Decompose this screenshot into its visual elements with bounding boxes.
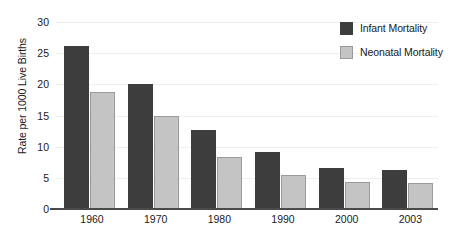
bar-infant-1990 bbox=[255, 152, 280, 209]
bar-group bbox=[128, 22, 184, 209]
legend-swatch-icon bbox=[340, 46, 353, 59]
legend-label: Neonatal Mortality bbox=[360, 46, 443, 58]
legend-swatch-icon bbox=[340, 22, 353, 35]
x-tick-label: 2003 bbox=[380, 213, 440, 225]
bar-neonatal-1960 bbox=[90, 92, 115, 209]
bar-infant-1960 bbox=[64, 46, 89, 209]
x-axis-line bbox=[50, 208, 438, 210]
legend-label: Infant Mortality bbox=[360, 22, 427, 34]
bar-infant-1980 bbox=[191, 130, 216, 209]
bar-chart: Rate per 1000 Live Births 051015202530 1… bbox=[0, 0, 459, 245]
bar-infant-2003 bbox=[382, 170, 407, 209]
bar-neonatal-1970 bbox=[154, 116, 179, 210]
y-tick-label: 20 bbox=[27, 79, 49, 89]
bar-infant-2000 bbox=[319, 168, 344, 209]
y-tick-label: 10 bbox=[27, 142, 49, 152]
x-tick-label: 1990 bbox=[253, 213, 313, 225]
y-tick-label: 15 bbox=[27, 111, 49, 121]
bar-group bbox=[191, 22, 247, 209]
y-tick-label: 5 bbox=[27, 173, 49, 183]
chart-legend: Infant MortalityNeonatal Mortality bbox=[340, 18, 443, 66]
y-tick-label: 30 bbox=[27, 17, 49, 27]
x-tick-label: 1960 bbox=[62, 213, 122, 225]
bar-neonatal-1990 bbox=[281, 175, 306, 209]
bar-neonatal-2003 bbox=[408, 183, 433, 209]
bar-infant-1970 bbox=[128, 84, 153, 209]
bar-neonatal-1980 bbox=[217, 157, 242, 209]
x-tick-label: 1980 bbox=[189, 213, 249, 225]
bar-group bbox=[255, 22, 311, 209]
bar-group bbox=[64, 22, 120, 209]
bar-neonatal-2000 bbox=[345, 182, 370, 209]
legend-item-infant: Infant Mortality bbox=[340, 18, 443, 38]
y-axis-tick-labels: 051015202530 bbox=[27, 0, 49, 245]
y-tick-label: 0 bbox=[27, 204, 49, 214]
y-tick-label: 25 bbox=[27, 48, 49, 58]
legend-item-neonatal: Neonatal Mortality bbox=[340, 42, 443, 62]
x-tick-label: 2000 bbox=[317, 213, 377, 225]
x-tick-label: 1970 bbox=[126, 213, 186, 225]
